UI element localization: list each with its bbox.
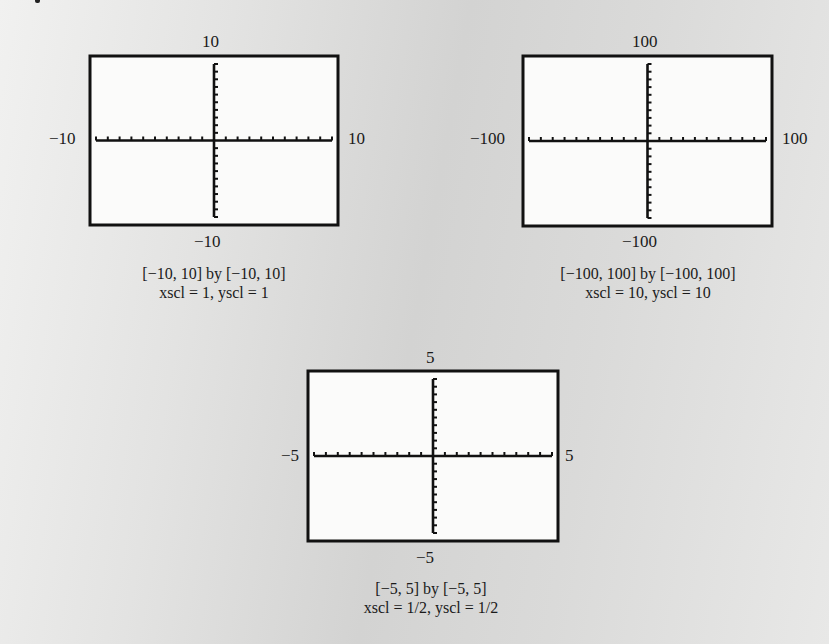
plot-3-window-caption: [−5, 5] by [−5, 5] bbox=[375, 579, 486, 598]
plot-3-xmax-label: 5 bbox=[565, 447, 574, 464]
plot-3-ymax-label: 5 bbox=[426, 349, 435, 366]
plot-3-scale-caption: xscl = 1/2, yscl = 1/2 bbox=[364, 598, 498, 617]
plot-3-ymin-label: −5 bbox=[416, 549, 434, 566]
plot-3-xmin-label: −5 bbox=[281, 447, 299, 464]
plot-3-screen bbox=[0, 0, 829, 644]
